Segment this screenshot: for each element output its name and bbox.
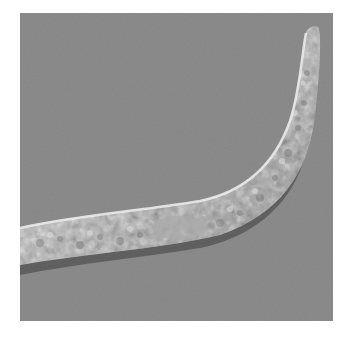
micrograph: [20, 13, 333, 321]
worm-illustration: [20, 13, 333, 321]
